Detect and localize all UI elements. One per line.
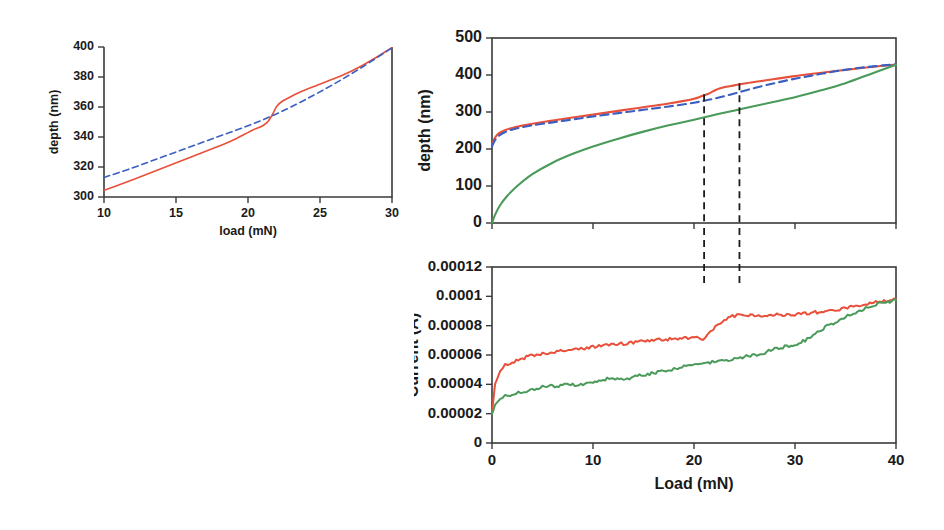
chart-main-current-load: 00.000020.000040.000060.000080.00010.000… — [414, 245, 944, 530]
x-axis-title: load (mN) — [219, 224, 277, 238]
y-axis-tick-label: 300 — [73, 189, 94, 203]
series-depth-film-red — [492, 65, 896, 146]
y-axis-tick-label: 400 — [455, 65, 482, 82]
y-axis-tick-label: 0.00008 — [428, 316, 482, 333]
x-axis-tick-label: 25 — [313, 206, 327, 220]
plot-frame — [492, 267, 896, 443]
y-axis-tick-label: 380 — [73, 69, 94, 83]
plot-frame — [492, 38, 896, 223]
scientific-figure: 3003203403603804001015202530load (mN)dep… — [0, 0, 944, 530]
y-axis-tick-label: 320 — [73, 159, 94, 173]
x-axis-tick-label: 40 — [888, 451, 905, 468]
y-axis-tick-label: 0.00006 — [428, 345, 482, 362]
x-axis-title: Load (mN) — [654, 475, 733, 492]
y-axis-tick-label: 500 — [455, 28, 482, 45]
series-current-red — [492, 299, 896, 413]
y-axis-tick-label: 400 — [73, 39, 94, 53]
x-axis-tick-label: 20 — [241, 206, 255, 220]
chart-inset-depth-load: 3003203403603804001015202530load (mN)dep… — [0, 0, 420, 260]
x-axis-tick-label: 30 — [385, 206, 399, 220]
y-axis-tick-label: 200 — [455, 139, 482, 156]
x-axis-tick-label: 0 — [488, 451, 496, 468]
y-axis-tick-label: 0.0001 — [436, 286, 482, 303]
x-axis-tick-label: 15 — [169, 206, 183, 220]
series-fit-depth — [104, 48, 392, 178]
series-depth-fit-blue — [492, 64, 896, 146]
y-axis-tick-label: 360 — [73, 99, 94, 113]
y-axis-tick-label: 0.00004 — [428, 374, 483, 391]
y-axis-tick-label: 0 — [473, 213, 482, 230]
x-axis-tick-label: 10 — [585, 451, 602, 468]
y-axis-title: depth (nm) — [416, 89, 433, 172]
series-depth-substrate-green — [492, 65, 896, 223]
y-axis-tick-label: 0.00002 — [428, 404, 482, 421]
y-axis-title: Current (A) — [414, 313, 421, 397]
x-axis-tick-label: 20 — [686, 451, 703, 468]
y-axis-tick-label: 0 — [474, 433, 482, 450]
series-measured-depth — [104, 48, 392, 191]
y-axis-tick-label: 100 — [455, 176, 482, 193]
y-axis-title: depth (nm) — [47, 90, 61, 155]
series-current-green — [492, 299, 896, 414]
y-axis-tick-label: 0.00012 — [428, 257, 482, 274]
y-axis-tick-label: 300 — [455, 102, 482, 119]
y-axis-tick-label: 340 — [73, 129, 94, 143]
x-axis-tick-label: 10 — [97, 206, 111, 220]
x-axis-tick-label: 30 — [787, 451, 804, 468]
chart-main-depth-load: 0100200300400500depth (nm) — [414, 10, 944, 250]
